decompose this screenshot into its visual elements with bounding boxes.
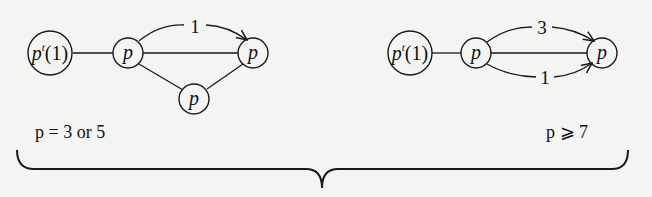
edge-label-3: 3 xyxy=(537,17,547,38)
node-root-right-label: pt(1) xyxy=(390,41,428,65)
curved-edge-1-part1 xyxy=(487,64,536,77)
edge-label-1-right: 1 xyxy=(540,67,550,88)
curved-edge-3-arrow xyxy=(552,27,594,41)
edge-a-c xyxy=(139,64,183,90)
curved-edge-1-arrow xyxy=(554,63,592,77)
curved-edge-a-b-arrow xyxy=(206,25,247,40)
node-b-left-label: p xyxy=(246,41,258,64)
curved-edge-a-b-part1 xyxy=(139,25,184,41)
node-root-left-label: pt(1) xyxy=(30,41,68,65)
node-c-left-label: p xyxy=(187,87,199,110)
underbrace xyxy=(17,150,628,188)
node-a-right-label: p xyxy=(469,41,481,64)
left-graph: 1 pt(1) p p p p = 3 or 5 xyxy=(28,16,268,142)
curved-edge-3-part1 xyxy=(487,27,532,42)
edge-label-1: 1 xyxy=(190,16,200,37)
left-caption: p = 3 or 5 xyxy=(35,122,105,142)
node-b-right-label: p xyxy=(595,41,607,64)
node-a-left-label: p xyxy=(121,41,133,64)
edge-c-b xyxy=(207,64,243,89)
right-graph: 3 1 pt(1) p p p ⩾ 7 xyxy=(388,17,617,142)
diagram-canvas: 1 pt(1) p p p p = 3 or 5 3 1 pt(1) p p p… xyxy=(0,0,652,197)
right-caption: p ⩾ 7 xyxy=(546,122,588,142)
